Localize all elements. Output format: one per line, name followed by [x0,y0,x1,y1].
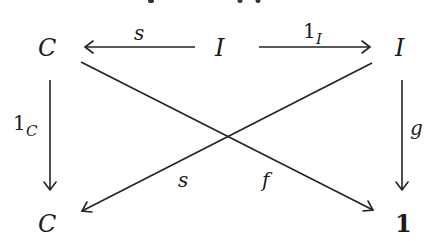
cropped-text-fragment [148,0,261,3]
object-top-middle: I [214,34,225,62]
label-g: g [410,116,423,140]
label-identity-C-sub: C [26,122,38,140]
object-top-left: C [38,34,56,62]
arrow-identity-C [44,80,56,190]
label-s-top: s [134,21,144,45]
label-f: f [260,168,273,192]
object-bottom-left: C [38,210,56,238]
label-s-diagonal: s [178,168,188,192]
object-top-right: I [394,34,405,62]
arrow-g [396,80,408,190]
label-identity-C-main: 1 [13,111,26,135]
commutative-diagram: C I I C 1 s 1 I 1 C g [0,0,439,241]
object-bottom-right: 1 [395,209,412,238]
label-identity-I-main: 1 [303,19,316,43]
label-identity-I-sub: I [315,30,323,48]
